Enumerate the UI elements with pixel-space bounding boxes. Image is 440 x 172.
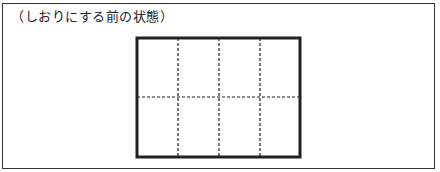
paper-sheet-diagram — [0, 0, 440, 172]
fold-lines — [137, 38, 300, 157]
